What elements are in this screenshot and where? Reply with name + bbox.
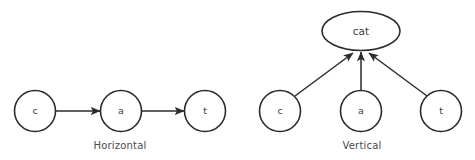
node-h-c-label: c (32, 105, 37, 116)
caption-vertical: Vertical (342, 140, 381, 151)
node-v-c[interactable]: c (260, 91, 301, 132)
edge-v-t-to-cat (369, 53, 427, 96)
node-v-cat-label: cat (353, 25, 369, 37)
node-h-t[interactable]: t (185, 91, 226, 132)
node-v-t-label: t (439, 105, 443, 116)
caption-horizontal: Horizontal (93, 140, 146, 151)
panel-horizontal: c a t Horizontal (15, 91, 226, 152)
node-v-t[interactable]: t (421, 91, 462, 132)
node-v-a[interactable]: a (341, 91, 382, 132)
node-h-a-label: a (118, 105, 124, 116)
node-h-c[interactable]: c (15, 91, 56, 132)
node-v-cat[interactable]: cat (322, 12, 400, 51)
node-v-a-label: a (358, 105, 364, 116)
node-h-t-label: t (203, 105, 207, 116)
edge-v-c-to-cat (295, 53, 353, 96)
node-h-a[interactable]: a (101, 91, 142, 132)
nodes-horizontal: c a t (15, 91, 226, 132)
figure-root: c a t Horizontal (0, 0, 475, 160)
panel-vertical: cat c a t Vertical (260, 12, 462, 152)
diagram-canvas: c a t Horizontal (0, 0, 475, 160)
edges-vertical (295, 52, 427, 96)
node-v-c-label: c (277, 105, 282, 116)
